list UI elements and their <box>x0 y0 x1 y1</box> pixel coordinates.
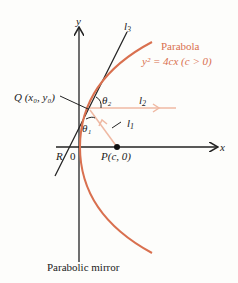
l3-label: l3 <box>124 20 131 34</box>
l2-label: l2 <box>139 94 146 108</box>
incident-ray-l1 <box>90 110 117 147</box>
point-r-label: R <box>55 150 63 162</box>
l1-label: l1 <box>127 117 134 131</box>
caption-parabolic-mirror: Parabolic mirror <box>47 261 120 273</box>
parabolic-mirror-diagram: y x l3 l2 l1 Parabola y² = 4cx (c > 0) Q… <box>0 0 238 283</box>
point-p-label: P(c, 0) <box>100 150 131 163</box>
theta1-arc-icon <box>86 117 95 119</box>
q-leader-line <box>60 96 88 109</box>
point-q-label: Q (x₀, y₀) <box>14 91 55 104</box>
theta1-label: θ₁ <box>82 122 91 134</box>
x-axis-label: x <box>219 141 225 153</box>
parabola-title: Parabola <box>161 40 200 52</box>
l1-leader-line <box>112 122 121 128</box>
y-axis-label: y <box>75 15 81 27</box>
theta2-arc-icon <box>96 97 101 108</box>
theta2-label: θ₂ <box>102 94 111 106</box>
parabola-equation: y² = 4cx (c > 0) <box>141 55 212 68</box>
origin-label: 0 <box>70 150 76 162</box>
